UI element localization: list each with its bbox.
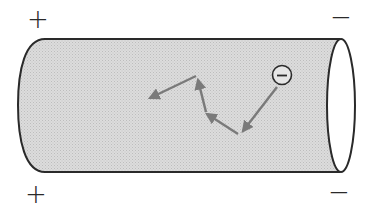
cylinder-end-cap (327, 39, 355, 172)
negative-sign-bottom: − (328, 179, 350, 205)
electron (273, 66, 292, 85)
conductor-diagram (0, 0, 375, 217)
positive-sign-bottom: + (25, 181, 47, 207)
negative-sign-top: − (330, 4, 352, 30)
positive-sign-top: + (27, 6, 49, 32)
cylinder-body (18, 39, 340, 172)
